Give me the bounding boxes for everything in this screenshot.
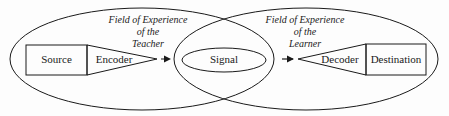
teacher-field-line2: of the — [100, 26, 196, 38]
destination-label: Destination — [366, 53, 426, 65]
teacher-field-line3: Teacher — [100, 38, 196, 50]
encoder-label: Encoder — [89, 53, 139, 65]
learner-field-line3: Learner — [257, 38, 353, 50]
teacher-field-line1: Field of Experience — [100, 14, 196, 26]
learner-field-line2: of the — [257, 26, 353, 38]
source-label: Source — [26, 53, 87, 65]
signal-label: Signal — [182, 53, 266, 65]
teacher-field-label: Field of Experience of the Teacher — [100, 14, 196, 50]
communication-diagram: Field of Experience of the Teacher Field… — [0, 0, 449, 116]
decoder-label: Decoder — [316, 53, 364, 65]
learner-field-line1: Field of Experience — [257, 14, 353, 26]
learner-field-label: Field of Experience of the Learner — [257, 14, 353, 50]
